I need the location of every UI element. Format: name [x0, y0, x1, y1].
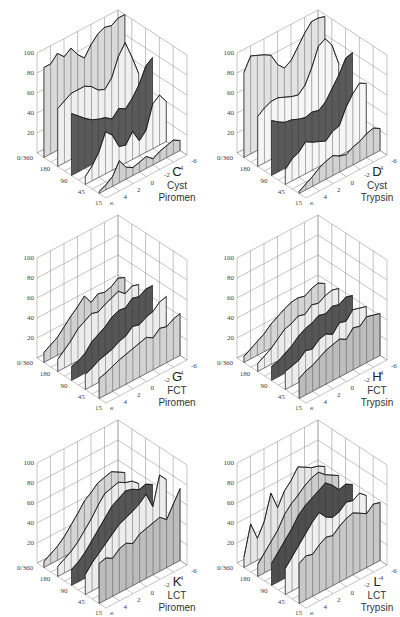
svg-text:4: 4 [124, 603, 128, 611]
chart-panel-g: 204060801000/3601809045156420-2-4-6GFCTP… [0, 205, 200, 410]
caption-treatment: Trypsin [347, 602, 400, 614]
svg-text:40: 40 [27, 109, 35, 117]
svg-text:100: 100 [24, 49, 35, 57]
svg-text:20: 20 [227, 129, 235, 137]
panel-caption: FCTTrypsin [347, 385, 400, 409]
caption-sample: FCT [147, 385, 207, 397]
chart-panel-k: 204060801000/3601809045156420-2-4-6KLCTP… [0, 410, 200, 615]
caption-sample: FCT [347, 385, 400, 397]
svg-text:90: 90 [261, 587, 269, 595]
svg-text:40: 40 [227, 109, 235, 117]
svg-text:0/360: 0/360 [217, 564, 233, 572]
svg-text:4: 4 [124, 398, 128, 406]
svg-text:60: 60 [227, 89, 235, 97]
svg-text:4: 4 [324, 603, 328, 611]
svg-text:6: 6 [110, 610, 114, 615]
svg-text:180: 180 [240, 575, 251, 583]
svg-text:180: 180 [40, 165, 51, 173]
svg-text:20: 20 [227, 539, 235, 547]
svg-text:80: 80 [27, 69, 35, 77]
caption-treatment: Piromen [147, 397, 207, 409]
caption-sample: Cyst [147, 180, 207, 192]
svg-text:90: 90 [61, 382, 69, 390]
svg-text:60: 60 [27, 294, 35, 302]
svg-text:20: 20 [227, 334, 235, 342]
svg-text:0/360: 0/360 [217, 154, 233, 162]
svg-text:40: 40 [227, 314, 235, 322]
svg-text:15: 15 [95, 609, 103, 615]
caption-treatment: Piromen [147, 602, 207, 614]
svg-text:60: 60 [227, 499, 235, 507]
svg-text:45: 45 [78, 393, 86, 401]
svg-text:60: 60 [27, 89, 35, 97]
svg-text:4: 4 [324, 193, 328, 201]
svg-text:40: 40 [27, 314, 35, 322]
svg-text:90: 90 [61, 587, 69, 595]
svg-text:180: 180 [40, 575, 51, 583]
svg-text:4: 4 [124, 193, 128, 201]
panel-caption: CystTrypsin [347, 180, 400, 204]
caption-sample: LCT [347, 590, 400, 602]
svg-text:0/360: 0/360 [217, 359, 233, 367]
svg-text:80: 80 [227, 69, 235, 77]
svg-text:100: 100 [24, 254, 35, 262]
svg-text:80: 80 [227, 479, 235, 487]
svg-text:100: 100 [224, 49, 235, 57]
svg-text:0/360: 0/360 [17, 564, 33, 572]
svg-text:2: 2 [137, 596, 141, 604]
svg-text:45: 45 [278, 598, 286, 606]
svg-text:2: 2 [137, 186, 141, 194]
svg-text:90: 90 [261, 382, 269, 390]
svg-text:45: 45 [78, 188, 86, 196]
panel-caption: LCTTrypsin [347, 590, 400, 614]
svg-text:4: 4 [324, 398, 328, 406]
chart-panel-l: 204060801000/3601809045156420-2-4-6LLCTT… [200, 410, 400, 615]
svg-text:20: 20 [27, 334, 35, 342]
panel-caption: CystPiromen [147, 180, 207, 204]
svg-text:60: 60 [27, 499, 35, 507]
svg-text:80: 80 [27, 479, 35, 487]
chart-panel-h: 204060801000/3601809045156420-2-4-6HFCTT… [200, 205, 400, 410]
svg-text:80: 80 [227, 274, 235, 282]
caption-sample: Cyst [347, 180, 400, 192]
svg-text:40: 40 [227, 519, 235, 527]
svg-text:45: 45 [278, 188, 286, 196]
chart-panel-d: 204060801000/3601809045156420-2-4-6DCyst… [200, 0, 400, 205]
svg-text:45: 45 [78, 598, 86, 606]
svg-text:2: 2 [337, 186, 341, 194]
svg-text:2: 2 [337, 391, 341, 399]
panel-letter: K [152, 574, 202, 589]
svg-text:40: 40 [27, 519, 35, 527]
panel-letter: H [352, 369, 400, 384]
svg-text:6: 6 [310, 610, 314, 615]
svg-text:90: 90 [261, 177, 269, 185]
svg-text:100: 100 [24, 459, 35, 467]
panel-letter: L [352, 574, 400, 589]
svg-text:180: 180 [40, 370, 51, 378]
svg-text:180: 180 [240, 370, 251, 378]
chart-panel-c: 204060801000/3601809045156420-2-4-6CCyst… [0, 0, 200, 205]
svg-text:2: 2 [337, 596, 341, 604]
svg-text:20: 20 [27, 129, 35, 137]
panel-letter: G [152, 369, 202, 384]
caption-treatment: Trypsin [347, 397, 400, 409]
svg-text:45: 45 [278, 393, 286, 401]
caption-sample: LCT [147, 590, 207, 602]
svg-text:80: 80 [27, 274, 35, 282]
svg-text:0/360: 0/360 [17, 359, 33, 367]
svg-text:20: 20 [27, 539, 35, 547]
panel-letter: D [352, 164, 400, 179]
panel-caption: LCTPiromen [147, 590, 207, 614]
svg-text:90: 90 [61, 177, 69, 185]
svg-text:100: 100 [224, 459, 235, 467]
svg-text:2: 2 [137, 391, 141, 399]
caption-treatment: Piromen [147, 192, 207, 204]
panel-letter: C [152, 164, 202, 179]
svg-text:100: 100 [224, 254, 235, 262]
svg-text:0/360: 0/360 [17, 154, 33, 162]
svg-text:180: 180 [240, 165, 251, 173]
panel-caption: FCTPiromen [147, 385, 207, 409]
caption-treatment: Trypsin [347, 192, 400, 204]
svg-text:60: 60 [227, 294, 235, 302]
svg-text:15: 15 [295, 609, 303, 615]
